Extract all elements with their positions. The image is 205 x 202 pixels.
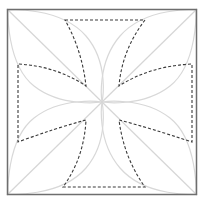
cross-construction-diagram: [0, 0, 205, 202]
diagonal-lines: [7, 9, 197, 195]
diagram-canvas: [0, 0, 205, 202]
